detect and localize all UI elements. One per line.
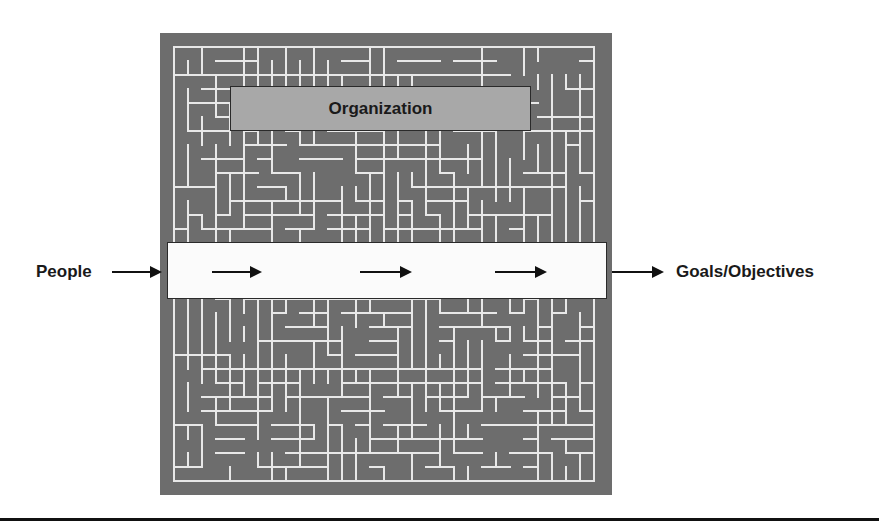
arrow-right-icon — [612, 266, 664, 278]
arrow-right-icon — [360, 266, 412, 278]
goals-objectives-label: Goals/Objectives — [676, 262, 814, 282]
organization-box: Organization — [230, 86, 531, 131]
arrow-right-icon — [212, 266, 262, 278]
bottom-rule-divider — [0, 518, 879, 521]
people-label: People — [36, 262, 92, 282]
arrow-right-icon — [112, 266, 162, 278]
arrow-right-icon — [495, 266, 547, 278]
organization-label: Organization — [329, 99, 433, 119]
